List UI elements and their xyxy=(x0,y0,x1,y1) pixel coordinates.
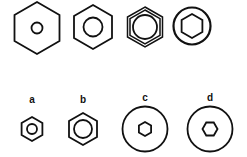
label-b: b xyxy=(80,94,86,105)
top-shape-3 xyxy=(128,7,163,47)
top-shape-2 xyxy=(74,5,112,49)
center-circle xyxy=(84,18,103,37)
hexagon-outline xyxy=(22,117,43,141)
center-circle xyxy=(27,124,37,134)
center-circle xyxy=(74,120,92,138)
hexagon-outline xyxy=(74,5,112,49)
label-a: a xyxy=(29,94,35,105)
hex-shapes-diagram: a b c d xyxy=(0,0,247,157)
center-circle xyxy=(133,15,157,39)
label-d: d xyxy=(207,92,213,103)
shape-b: b xyxy=(69,94,97,145)
hex-socket-pointy xyxy=(139,122,151,136)
top-shape-4 xyxy=(174,8,211,45)
shape-a: a xyxy=(22,94,43,141)
shape-d: d xyxy=(188,92,233,152)
top-shape-1 xyxy=(15,2,60,54)
shape-c: c xyxy=(123,92,168,152)
hex-socket xyxy=(182,14,203,38)
label-c: c xyxy=(142,92,148,103)
outer-circle xyxy=(123,107,168,152)
hex-socket-flat xyxy=(203,123,218,136)
center-hole-circle xyxy=(32,23,43,34)
hexagon-outline xyxy=(15,2,60,54)
outer-circle xyxy=(188,107,233,152)
